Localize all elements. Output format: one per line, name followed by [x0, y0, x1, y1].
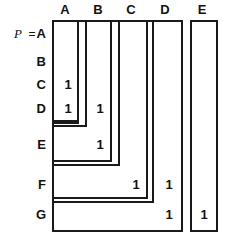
- edge-a-bottom: [52, 122, 79, 124]
- mask-c-inner: [120, 22, 146, 197]
- matrix-entry-d-b: 1: [94, 102, 106, 116]
- edge-c-bottom: [52, 197, 148, 199]
- edge-c-step-v: [52, 164, 54, 199]
- edge-b-right: [110, 20, 112, 162]
- edge-c-top: [118, 20, 148, 22]
- edge-b-top: [85, 20, 112, 22]
- matrix-entry-c-a: 1: [62, 78, 74, 92]
- edge-d-step-h: [52, 201, 154, 203]
- row-label-e: E: [30, 138, 46, 152]
- edge-c-right: [146, 20, 148, 199]
- matrix-entry-e-b: 1: [94, 138, 106, 152]
- edge-a-right: [77, 20, 79, 124]
- column-header-d: D: [155, 3, 175, 17]
- matrix-entry-f-d: 1: [163, 178, 175, 192]
- edge-b-step-v: [52, 125, 54, 162]
- matrix-entry-f-c: 1: [130, 178, 142, 192]
- row-label-g: G: [30, 208, 46, 222]
- edge-a-top: [52, 20, 79, 22]
- row-label-c: C: [30, 78, 46, 92]
- edge-b-step-h: [52, 125, 87, 127]
- edge-b-left: [85, 20, 87, 125]
- edge-c-step-h: [52, 164, 120, 166]
- edge-d-step-v: [52, 201, 54, 232]
- row-label-d: D: [30, 102, 46, 116]
- mask-d-inner: [154, 22, 181, 230]
- edge-e-top: [190, 20, 218, 22]
- edge-d-right: [181, 20, 183, 232]
- row-label-f: F: [30, 178, 46, 192]
- column-header-c: C: [121, 3, 141, 17]
- edge-c-left: [118, 20, 120, 164]
- edge-a-left: [52, 20, 54, 124]
- mask-e-inner: [192, 22, 216, 230]
- row-label-a: A: [30, 27, 46, 41]
- matrix-name-italic: P: [14, 26, 22, 41]
- edge-b-bottom: [52, 160, 112, 162]
- edge-d-top: [152, 20, 183, 22]
- matrix-entry-d-a: 1: [62, 102, 74, 116]
- column-header-b: B: [88, 3, 108, 17]
- edge-d-left: [152, 20, 154, 201]
- matrix-entry-g-d: 1: [163, 208, 175, 222]
- edge-e-bottom: [190, 230, 218, 232]
- matrix-entry-g-e: 1: [198, 208, 210, 222]
- row-label-b: B: [30, 55, 46, 69]
- edge-d-bottom: [52, 230, 183, 232]
- nested-interval-matrix-figure: P = A B C D E A B C D E F G: [0, 0, 225, 238]
- edge-e-left: [190, 20, 192, 232]
- column-header-a: A: [55, 3, 75, 17]
- column-header-e: E: [192, 3, 212, 17]
- edge-e-right: [216, 20, 218, 232]
